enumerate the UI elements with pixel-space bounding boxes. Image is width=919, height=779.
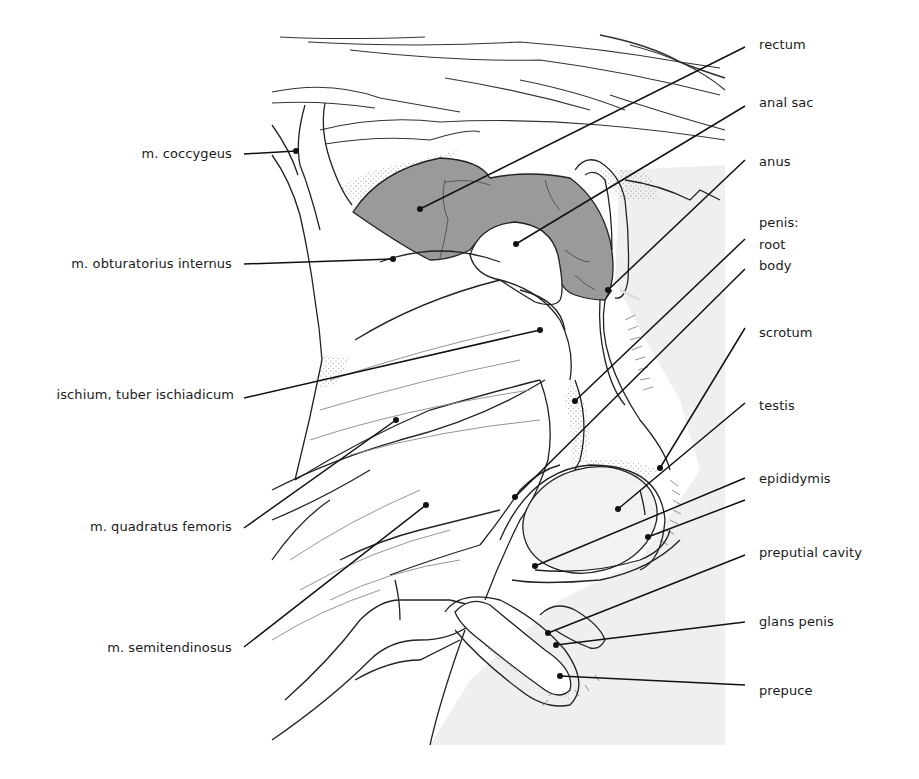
- label-testis: testis: [759, 398, 795, 414]
- anatomy-figure: m. coccygeus m. obturatorius internus is…: [0, 0, 919, 779]
- label-scrotum: scrotum: [759, 325, 813, 341]
- rectum-region: [353, 158, 613, 300]
- label-preputial-cavity: preputial cavity: [759, 545, 862, 561]
- label-m-obturatorius-internus: m. obturatorius internus: [71, 256, 232, 272]
- label-anus: anus: [759, 154, 791, 170]
- label-penis: penis:: [759, 215, 799, 231]
- label-glans-penis: glans penis: [759, 614, 834, 630]
- label-prepuce: prepuce: [759, 683, 813, 699]
- label-m-semitendinosus: m. semitendinosus: [107, 640, 232, 656]
- label-penis-root: root: [759, 237, 785, 253]
- label-m-quadratus-femoris: m. quadratus femoris: [90, 519, 232, 535]
- label-m-coccygeus: m. coccygeus: [142, 146, 232, 162]
- label-epididymis: epididymis: [759, 471, 831, 487]
- stippled-area: [320, 355, 350, 388]
- label-anal-sac: anal sac: [759, 95, 814, 111]
- upper-muscle-lines: [272, 35, 725, 144]
- label-rectum: rectum: [759, 37, 806, 53]
- label-penis-body: body: [759, 258, 792, 274]
- label-ischium-tuber-ischiadicum: ischium, tuber ischiadicum: [57, 387, 234, 403]
